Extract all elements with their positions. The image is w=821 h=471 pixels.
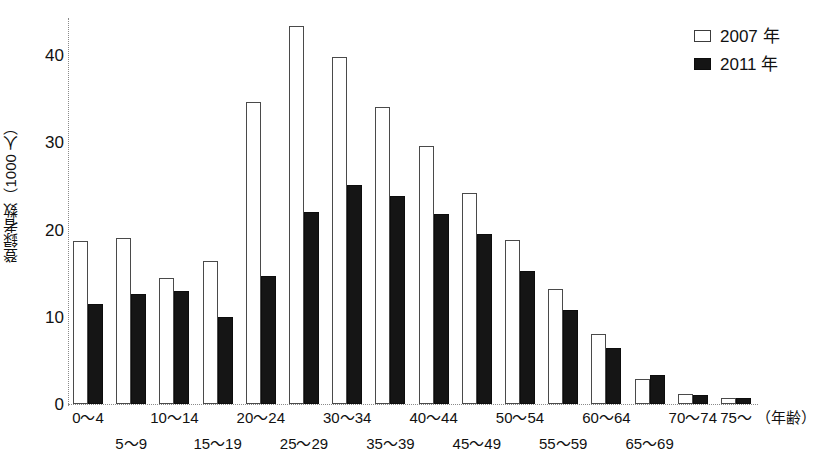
bar-2011[interactable] [563,310,578,405]
x-axis-unit: （年齢） [756,410,816,426]
bar-2007[interactable] [73,241,88,404]
bar-group [505,14,535,404]
bar-2007[interactable] [419,146,434,404]
bar-group [462,14,492,404]
bar-2011[interactable] [261,276,276,404]
bar-2007[interactable] [548,289,563,404]
y-axis-ticks: 40 30 20 10 0 [22,0,64,471]
bar-2011[interactable] [650,375,665,404]
bar-2007[interactable] [505,240,520,404]
bar-2007[interactable] [289,26,304,404]
bar-2011[interactable] [347,185,362,404]
legend-item-2007: 2007 年 [694,22,814,50]
x-axis-line [68,404,758,405]
bar-2011[interactable] [520,271,535,404]
x-tick-label: 35〜39 [358,436,422,452]
y-tick-20: 20 [28,222,64,239]
bar-group [73,14,103,404]
bar-group [635,14,665,404]
filled-square-icon [694,58,711,70]
x-tick-label: 25〜29 [272,436,336,452]
bar-2007[interactable] [332,57,347,404]
bar-2007[interactable] [721,398,736,404]
bar-2007[interactable] [116,238,131,404]
x-tick-label: 15〜19 [186,436,250,452]
bar-2007[interactable] [246,102,261,404]
bar-2011[interactable] [477,234,492,404]
y-axis-title: 登録者数（1000 人） [2,120,24,263]
bar-group [419,14,449,404]
bar-group [591,14,621,404]
y-tick-10: 10 [28,309,64,326]
bar-2011[interactable] [88,304,103,404]
bar-2011[interactable] [218,317,233,405]
bar-group [116,14,146,404]
x-tick-label: 40〜44 [402,410,466,426]
plot-area [69,14,759,404]
bar-2011[interactable] [304,212,319,405]
bar-2011[interactable] [390,196,405,404]
bar-2007[interactable] [678,394,693,404]
x-tick-label: 65〜69 [618,436,682,452]
bar-group [332,14,362,404]
bar-2011[interactable] [434,214,449,404]
bar-2007[interactable] [635,379,650,404]
bar-group [548,14,578,404]
legend-item-2011: 2011 年 [694,50,814,78]
x-tick-label: 45〜49 [445,436,509,452]
open-square-icon [694,30,711,42]
x-tick-label: 10〜14 [142,410,206,426]
bar-2011[interactable] [736,398,751,404]
x-tick-label: 50〜54 [488,410,552,426]
x-tick-label: 5〜9 [99,436,163,452]
bar-2007[interactable] [159,278,174,404]
x-tick-label: 20〜24 [229,410,293,426]
bar-chart: 登録者数（1000 人） 40 30 20 10 0 0〜45〜910〜1415… [0,0,821,471]
bar-2011[interactable] [606,348,621,404]
x-tick-label: 55〜59 [531,436,595,452]
bar-2011[interactable] [174,291,189,404]
bar-group [203,14,233,404]
bar-group [246,14,276,404]
bar-group [159,14,189,404]
legend-label-2007: 2007 年 [720,28,780,45]
bar-group [375,14,405,404]
x-tick-label: 0〜4 [56,410,120,426]
bar-2011[interactable] [693,395,708,404]
bar-2007[interactable] [591,334,606,404]
bar-2007[interactable] [375,107,390,404]
x-tick-label: 30〜34 [315,410,379,426]
legend-label-2011: 2011 年 [720,56,778,73]
clipped-caption [110,462,710,471]
x-tick-label: 60〜64 [574,410,638,426]
bar-group [289,14,319,404]
legend: 2007 年 2011 年 [694,22,814,78]
bar-2007[interactable] [462,193,477,404]
y-tick-40: 40 [28,47,64,64]
bar-2011[interactable] [131,294,146,404]
y-tick-30: 30 [28,134,64,151]
bar-2007[interactable] [203,261,218,404]
